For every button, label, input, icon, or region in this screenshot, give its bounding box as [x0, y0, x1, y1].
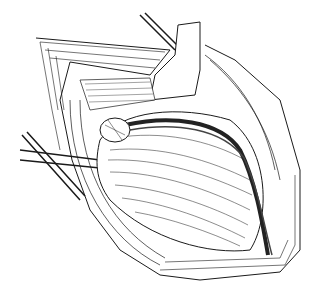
retractor-top: [140, 13, 178, 50]
fat-layer-top: [40, 42, 165, 68]
illustration-canvas: [0, 0, 315, 292]
surgical-illustration: [0, 0, 315, 292]
retractor-blade-top: [150, 22, 200, 100]
